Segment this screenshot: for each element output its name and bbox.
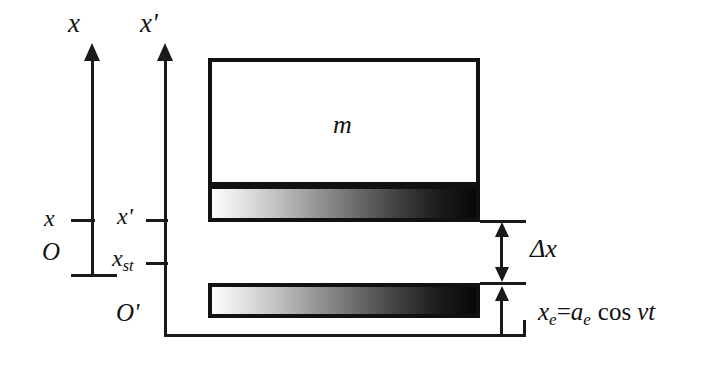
x-axis-stem (91, 60, 94, 276)
x-prime-axis-arrowhead (157, 43, 173, 61)
x-axis-tick-origin (71, 274, 117, 277)
x-prime-axis-tick-xst (146, 262, 168, 265)
excitation-lhs-subscript: e (549, 310, 557, 329)
delta-x-arrowhead-down (495, 267, 509, 282)
excitation-lhs: x (538, 298, 549, 325)
xst-subscript: st (123, 256, 134, 275)
ground-baseline (164, 334, 526, 337)
excitation-amplitude: a (571, 298, 584, 325)
x-axis-tick-x-label: x (44, 206, 55, 230)
physics-diagram: x x O x' x' xst O' m Δx xe=aecosνt (0, 0, 714, 365)
x-prime-axis-stem (164, 60, 167, 336)
spring-layer-strip (208, 186, 480, 222)
base-foundation-strip (208, 283, 480, 318)
x-prime-axis-tick-xprime-label: x' (117, 204, 133, 228)
excitation-equals: = (557, 298, 571, 325)
baseline-right-tick (523, 320, 526, 337)
x-prime-axis-origin-label: O' (116, 300, 139, 325)
x-axis-origin-label: O (42, 239, 60, 264)
x-prime-axis-label: x' (140, 10, 158, 37)
excitation-arrow-stem (500, 294, 503, 336)
excitation-formula: xe=aecosνt (538, 299, 655, 328)
x-prime-axis-tick-xst-label: xst (112, 246, 134, 275)
excitation-cos: cos (598, 298, 631, 325)
x-prime-axis-tick-xprime (146, 219, 168, 222)
excitation-argument: νt (637, 298, 655, 325)
x-axis-label: x (68, 10, 80, 37)
mass-block-label: m (333, 110, 352, 140)
excitation-amplitude-subscript: e (583, 310, 591, 329)
xst-base: x (112, 245, 123, 271)
x-axis-tick-x (71, 219, 95, 222)
delta-x-label: Δx (530, 236, 557, 262)
x-axis-arrowhead (84, 43, 100, 61)
dim-extension-line-mid (480, 282, 526, 285)
